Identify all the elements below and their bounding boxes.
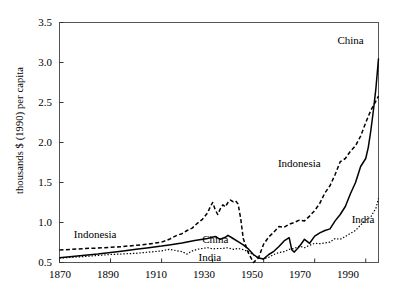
y-tick-1.5: 1.5	[26, 176, 52, 188]
series-label-india-mid: India	[199, 251, 222, 263]
y-tick-3.5: 3.5	[26, 16, 52, 28]
x-tick-1990: 1990	[328, 268, 368, 280]
y-tick-2.5: 2.5	[26, 96, 52, 108]
series-label-indonesia-left: Indonesia	[74, 228, 117, 240]
series-label-china-right: China	[337, 34, 363, 46]
x-tick-1950: 1950	[232, 268, 272, 280]
x-tick-1870: 1870	[40, 268, 80, 280]
series-label-indonesia-right: Indonesia	[278, 157, 321, 169]
y-tick-1.0: 1.0	[26, 216, 52, 228]
y-tick-3.0: 3.0	[26, 56, 52, 68]
y-axis-label: thousands $ (1990) per capita	[14, 46, 25, 216]
axes-frame	[60, 23, 379, 263]
x-tick-1910: 1910	[136, 268, 176, 280]
x-tick-1930: 1930	[184, 268, 224, 280]
axis-ticks	[60, 23, 366, 263]
series-label-india-right: India	[352, 213, 375, 225]
x-tick-1970: 1970	[280, 268, 320, 280]
plot-area	[0, 0, 395, 301]
chart-figure: thousands $ (1990) per capita 3.5 3.0 2.…	[0, 0, 395, 301]
series-label-china-mid: China	[202, 233, 228, 245]
x-tick-1890: 1890	[88, 268, 128, 280]
y-tick-2.0: 2.0	[26, 136, 52, 148]
y-tick-0.5: 0.5	[26, 256, 52, 268]
